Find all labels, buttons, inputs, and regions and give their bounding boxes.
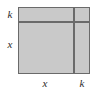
- horizontal-divider-line: [18, 21, 90, 23]
- label-bottom-right-k: k: [76, 78, 88, 89]
- area-model-figure: k x x k: [0, 0, 94, 94]
- label-left-bottom-x: x: [4, 39, 16, 50]
- label-left-top-k: k: [4, 9, 16, 20]
- vertical-divider-line: [73, 7, 75, 74]
- area-model-square: [18, 7, 90, 74]
- label-bottom-left-x: x: [39, 78, 51, 89]
